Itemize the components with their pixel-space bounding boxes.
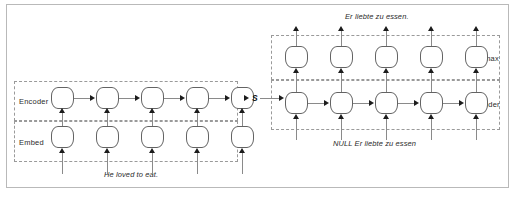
decoder-to-softmax-line-1 [296,72,297,93]
softmax-output-arrowhead-4 [428,26,434,31]
decoder-input-arrowhead-1 [293,114,299,119]
decoder-input-arrowhead-3 [383,114,389,119]
softmax-output-line-1 [296,30,297,47]
softmax-output-line-3 [386,30,387,47]
embed-cell-4 [186,126,209,148]
source-input-line-5 [242,152,243,174]
encoder-group-label: Encoder [19,97,48,106]
source-input-line-1 [62,152,63,174]
softmax-cell-1 [285,46,308,68]
encoder-input-arrowhead-3 [149,108,155,113]
embed-input-arrowhead-4 [194,148,200,153]
decoder-recurrent-arrowhead-4 [459,100,464,106]
encoder-input-arrowhead-1 [59,108,65,113]
decoder-input-arrowhead-4 [428,114,434,119]
embed-input-arrowhead-2 [104,148,110,153]
decoder-input-arrowhead-5 [473,114,479,119]
decoder-recurrent-arrowhead-1 [324,100,329,106]
softmax-input-arrowhead-2 [338,68,344,73]
softmax-input-arrowhead-5 [473,68,479,73]
embed-cell-3 [141,126,164,148]
source-input-line-2 [107,152,108,174]
decoder-input-line-2 [341,118,342,140]
encoder-cell-5 [231,87,254,109]
source-input-line-3 [152,152,153,174]
decoder-input-line-3 [386,118,387,140]
softmax-cell-4 [420,46,443,68]
decoder-to-softmax-line-2 [341,72,342,93]
embed-cell-2 [96,126,119,148]
encoder-recurrent-arrowhead-3 [180,95,185,101]
decoder-input-line-1 [296,118,297,140]
softmax-output-arrowhead-5 [473,26,479,31]
target-output-caption: Er liebte zu essen. [345,12,409,21]
encoder-recurrent-arrowhead-4 [225,95,230,101]
decoder-cell-1 [285,92,308,114]
softmax-input-arrowhead-3 [383,68,389,73]
embed-input-arrowhead-1 [59,148,65,153]
decoder-to-softmax-line-3 [386,72,387,93]
decoder-input-line-5 [476,118,477,140]
decoder-recurrent-arrowhead-3 [414,100,419,106]
softmax-cell-3 [375,46,398,68]
state-input-arrowhead [244,95,249,101]
softmax-output-arrowhead-2 [338,26,344,31]
decoder-to-softmax-line-5 [476,72,477,93]
decoder-input-arrowhead-2 [338,114,344,119]
embed-group-label: Embed [19,138,44,147]
encoder-recurrent-arrowhead-1 [90,95,95,101]
embed-input-arrowhead-5 [239,148,245,153]
decoder-input-arrowhead [279,95,284,101]
encoder-cell-3 [141,87,164,109]
embed-cell-1 [51,126,74,148]
embed-input-arrowhead-3 [149,148,155,153]
softmax-output-arrowhead-1 [293,26,299,31]
source-sentence-caption: He loved to eat. [104,170,158,179]
decoder-cell-4 [420,92,443,114]
encoder-recurrent-arrowhead-2 [135,95,140,101]
encoder-input-arrowhead-2 [104,108,110,113]
source-input-line-4 [197,152,198,174]
decoder-input-line-4 [431,118,432,140]
encoder-input-arrowhead-4 [194,108,200,113]
embed-cell-5 [231,126,254,148]
encoder-cell-2 [96,87,119,109]
decoder-recurrent-arrowhead-2 [369,100,374,106]
softmax-output-arrowhead-3 [383,26,389,31]
encoder-input-arrowhead-5 [239,108,245,113]
encoder-cell-1 [51,87,74,109]
decoder-to-softmax-line-4 [431,72,432,93]
state-vector-label: S [252,93,258,103]
decoder-cell-2 [330,92,353,114]
softmax-cell-5 [465,46,488,68]
decoder-cell-3 [375,92,398,114]
encoder-cell-4 [186,87,209,109]
softmax-input-arrowhead-4 [428,68,434,73]
softmax-output-line-2 [341,30,342,47]
softmax-output-line-4 [431,30,432,47]
decoder-cell-5 [465,92,488,114]
softmax-cell-2 [330,46,353,68]
softmax-input-arrowhead-1 [293,68,299,73]
decoder-input-caption: NULL Er liebte zu essen [333,139,416,148]
diagram-canvas: Encoder Embed Softmax Decoder S [0,0,517,199]
softmax-output-line-5 [476,30,477,47]
